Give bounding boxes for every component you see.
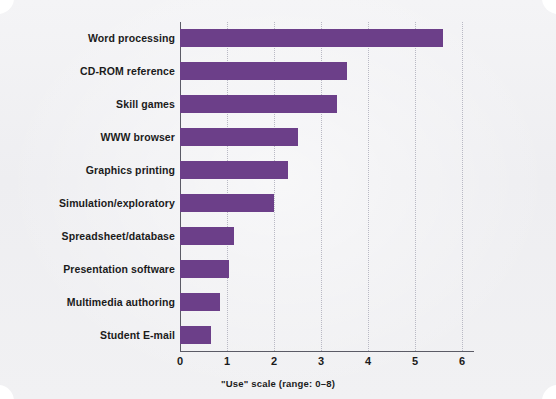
gridline-4 (368, 22, 370, 351)
category-label: Skill games (116, 98, 175, 110)
chart-figure: Word processingCD-ROM referenceSkill gam… (0, 0, 556, 399)
plot-area: Word processingCD-ROM referenceSkill gam… (0, 0, 556, 399)
category-label: Graphics printing (86, 164, 175, 176)
bar (180, 260, 229, 278)
bar (180, 293, 220, 311)
bar (180, 326, 211, 344)
category-label: Multimedia authoring (67, 296, 175, 308)
bar (180, 29, 443, 47)
category-label: Word processing (88, 32, 175, 44)
category-label: CD-ROM reference (80, 65, 175, 77)
x-axis-caption: "Use" scale (range: 0–8) (0, 378, 556, 389)
bar (180, 128, 298, 146)
x-axis-line (180, 351, 474, 352)
x-tick-label: 3 (308, 355, 334, 367)
category-label: Simulation/exploratory (59, 197, 175, 209)
bar (180, 95, 337, 113)
bar (180, 194, 274, 212)
bar (180, 161, 288, 179)
x-tick-label: 0 (167, 355, 193, 367)
x-tick-label: 2 (261, 355, 287, 367)
gridline-6 (462, 22, 464, 351)
x-tick-label: 6 (449, 355, 475, 367)
bar (180, 227, 234, 245)
category-label: Presentation software (63, 263, 175, 275)
category-label: Student E-mail (100, 329, 175, 341)
x-tick-label: 4 (355, 355, 381, 367)
gridline-5 (415, 22, 417, 351)
category-label: Spreadsheet/database (62, 230, 175, 242)
bar (180, 62, 347, 80)
x-tick-label: 5 (402, 355, 428, 367)
x-tick-label: 1 (214, 355, 240, 367)
category-label: WWW browser (100, 131, 175, 143)
